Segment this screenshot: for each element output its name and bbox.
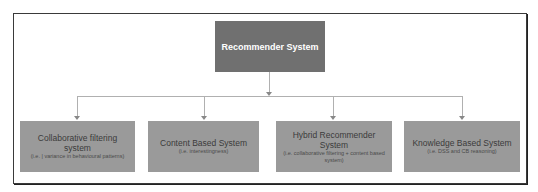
- node-subtitle: (i.e. interestingness): [179, 148, 229, 155]
- branch-arrow-icon-2: [201, 116, 207, 120]
- node-subtitle: (i.e. DSS and CB reasoning): [427, 148, 496, 155]
- branch-connector-4: [462, 96, 463, 117]
- node-subtitle: (i.e. | variance in behavioural patterns…: [31, 153, 124, 160]
- node-knowledge-based: Knowledge Based System (i.e. DSS and CB …: [404, 121, 520, 172]
- node-content-based: Content Based System (i.e. interestingne…: [148, 121, 259, 172]
- branch-arrow-icon-1: [74, 116, 80, 120]
- node-subtitle: (i.e. collaborative filtering + content …: [280, 150, 388, 164]
- branch-arrow-icon-4: [459, 116, 465, 120]
- node-title: Collaborative filtering system: [24, 133, 131, 153]
- horizontal-connector: [77, 96, 462, 97]
- root-node-recommender-system: Recommender System: [215, 21, 325, 72]
- node-hybrid-recommender: Hybrid Recommender System (i.e. collabor…: [276, 121, 392, 172]
- node-title: Content Based System: [160, 138, 247, 148]
- branch-connector-2: [204, 96, 205, 117]
- root-label: Recommender System: [221, 42, 318, 52]
- branch-connector-3: [333, 96, 334, 117]
- root-stem-connector: [269, 72, 270, 94]
- node-title: Knowledge Based System: [412, 138, 511, 148]
- branch-connector-1: [77, 96, 78, 117]
- branch-arrow-icon-3: [330, 116, 336, 120]
- node-collaborative-filtering: Collaborative filtering system (i.e. | v…: [20, 121, 135, 172]
- node-title: Hybrid Recommender System: [280, 130, 388, 150]
